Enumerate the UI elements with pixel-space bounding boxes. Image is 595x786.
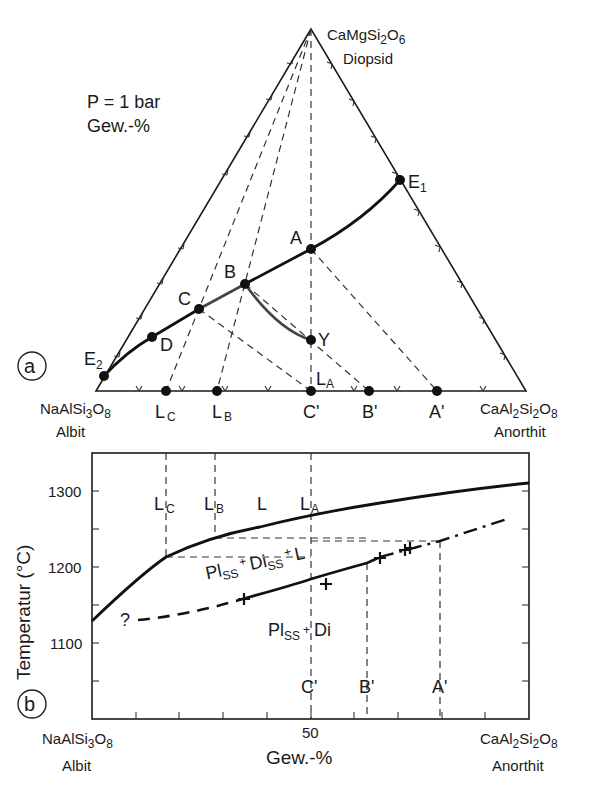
point-bprime	[364, 386, 374, 396]
temperature-composition-chart: 1300 1200 1100 Temperatur (°C)	[13, 453, 558, 774]
pressure-label: P = 1 bar	[87, 92, 160, 112]
label-c: C	[178, 289, 191, 309]
field-l: L	[257, 494, 267, 514]
point-e2	[99, 371, 109, 381]
field-lb: LB	[204, 494, 224, 516]
apex-dashed-lines	[166, 29, 311, 391]
field-lc: LC	[154, 494, 175, 516]
point-lb	[212, 386, 222, 396]
end-albite-name: Albit	[62, 757, 92, 774]
label-e1: E1	[408, 172, 427, 195]
marker-cprime: C'	[301, 677, 317, 697]
y-tick-1300: 1300	[48, 483, 81, 500]
point-e1	[395, 175, 405, 185]
label-bprime: B'	[362, 402, 377, 422]
y-axis-label: Temperatur (°C)	[13, 545, 34, 680]
phase-diagram-figure: E1 A B C D E2 Y LA LC LB C' B' A' CaMgSi…	[0, 0, 595, 786]
solidus-curve-uncertain	[138, 598, 246, 620]
label-d: D	[160, 335, 173, 355]
ternary-points	[99, 175, 442, 396]
label-lb: LB	[212, 402, 232, 424]
x-tick-50: 50	[302, 724, 319, 741]
svg-text:PlSS+DiSS+L: PlSS+DiSS+L	[203, 542, 307, 586]
label-cprime: C'	[303, 402, 319, 422]
field-pl-di-l: PlSS+DiSS+L	[203, 542, 307, 586]
label-a: A	[290, 228, 302, 248]
ternary-diagram: E1 A B C D E2 Y LA LC LB C' B' A' CaMgSi…	[18, 26, 558, 440]
point-a	[306, 244, 316, 254]
field-la: LA	[300, 494, 319, 516]
panel-a-label: a	[24, 355, 36, 377]
point-lc	[161, 386, 171, 396]
label-lc: LC	[155, 402, 176, 424]
end-anorthite-name: Anorthit	[492, 757, 545, 774]
point-cprime	[306, 386, 316, 396]
point-aprime	[432, 386, 442, 396]
label-b: B	[224, 262, 236, 282]
end-albite-formula: NaAlSi3O8	[42, 730, 113, 751]
end-anorthite-formula: CaAl2Si2O8	[480, 730, 558, 751]
right-edge-ticks	[327, 62, 505, 360]
y-tick-1100: 1100	[50, 635, 82, 652]
marker-bprime: B'	[359, 677, 374, 697]
x-axis-label: Gew.-%	[266, 747, 333, 768]
y-tick-1200: 1200	[48, 559, 81, 576]
solidus-curve-extrapolated	[380, 518, 510, 557]
vertex-anorthite-name: Anorthit	[494, 423, 547, 440]
point-b	[240, 279, 250, 289]
panel-b-label: b	[24, 693, 35, 715]
vertex-diopside-name: Diopsid	[343, 50, 393, 67]
cotectic-segment-cb	[199, 284, 245, 309]
question-mark: ?	[120, 610, 130, 630]
vertex-albite-name: Albit	[56, 423, 86, 440]
label-aprime: A'	[429, 402, 444, 422]
point-d	[147, 332, 157, 342]
label-la: LA	[316, 369, 334, 391]
point-c	[194, 304, 204, 314]
units-label: Gew.-%	[87, 116, 150, 136]
point-y	[306, 335, 316, 345]
cotectic-line	[104, 309, 199, 376]
label-y: Y	[318, 330, 330, 350]
marker-aprime: A'	[432, 677, 447, 697]
vertex-albite-formula: NaAlSi3O8	[40, 400, 111, 421]
vertex-diopside-formula: CaMgSi2O6	[327, 26, 406, 47]
vertex-anorthite-formula: CaAl2Si2O8	[480, 400, 558, 421]
field-pl-di: PlSS+Di	[268, 620, 331, 643]
label-e2: E2	[84, 349, 103, 372]
